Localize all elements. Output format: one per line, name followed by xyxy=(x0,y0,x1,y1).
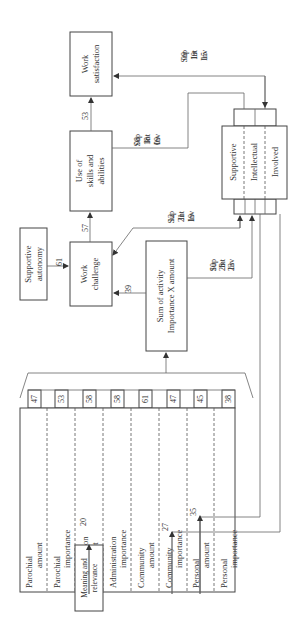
use-of-skills-node: Use of skills and abilities xyxy=(70,131,112,211)
parochial-importance-label-2: importance xyxy=(62,530,72,568)
coef-satisfaction: 09 Sup 19 Int 15 Inv xyxy=(180,49,209,62)
climate-intellectual-label: Intellectual xyxy=(249,142,259,181)
edge-label-20: 20 xyxy=(79,518,88,526)
coef-sat-int-k: Int xyxy=(190,49,199,59)
climate-supportive-label: Supportive xyxy=(228,143,238,181)
administration-importance-label-1: Administration xyxy=(108,536,118,588)
administration-importance-label-2: importance xyxy=(118,530,128,568)
coef-skl-sup-k: Sup xyxy=(133,134,142,146)
coef-sat-inv-k: Inv xyxy=(200,50,209,61)
parochial-importance-label-1: Parochial xyxy=(52,555,62,588)
community-importance-label-2: importance xyxy=(174,530,184,568)
edge-label-57: 57 xyxy=(81,224,90,232)
personal-amount-label-2: amount xyxy=(201,542,211,568)
administration-amount-value: 58 xyxy=(85,395,94,403)
sum-of-activity-label-2: Importance X amount xyxy=(166,258,176,333)
community-amount-label-2: amount xyxy=(146,542,156,568)
edge-label-39: 39 xyxy=(124,285,133,293)
use-of-skills-label-2: skills and xyxy=(85,154,95,187)
supportive-autonomy-label-2: autonomy xyxy=(34,246,44,281)
edge-label-53: 53 xyxy=(81,112,90,120)
administration-importance-value: 58 xyxy=(113,395,122,403)
work-satisfaction-node: Work satisfaction xyxy=(70,32,112,96)
supportive-autonomy-node: Supportive autonomy xyxy=(20,228,47,300)
coef-sum-sup-k: Sup xyxy=(209,259,218,271)
work-challenge-label-1: Work xyxy=(79,264,89,283)
coef-sat-sup-k: Sup xyxy=(180,50,189,62)
edge-climate-satisfaction xyxy=(114,76,265,109)
personal-amount-value: 45 xyxy=(196,395,205,403)
personal-importance-label-1: Personal xyxy=(219,558,229,588)
coef-skl-int-k: Int xyxy=(143,133,152,143)
climate-involved-label: Involved xyxy=(270,146,280,177)
path-diagram: Work satisfaction Use of skills and abil… xyxy=(0,0,300,628)
meaning-relevance-label-2: relevance xyxy=(90,563,99,592)
parochial-amount-label-1: Parochial xyxy=(24,555,34,588)
parochial-amount-value: 47 xyxy=(30,395,39,403)
coef-chl-inv-k: Inv xyxy=(187,211,196,222)
work-challenge-node: Work challenge xyxy=(70,242,112,306)
use-of-skills-label-1: Use of xyxy=(74,160,84,183)
edge-label-27: 27 xyxy=(161,523,170,531)
edge-label-35: 35 xyxy=(189,508,198,516)
coef-challenge: 12 Sup 21 Int 19 Inv xyxy=(167,210,196,223)
use-of-skills-label-3: abilities xyxy=(96,158,106,185)
coef-chl-sup-k: Sup xyxy=(167,211,176,223)
coef-sum-inv-k: Inv xyxy=(227,259,236,270)
community-importance-value: 47 xyxy=(169,395,178,403)
climate-node: Supportive Intellectual Involved xyxy=(222,109,287,214)
coef-sum-int-k: Int xyxy=(218,258,227,268)
coef-chl-int-k: Int xyxy=(177,210,186,220)
personal-importance-value: 38 xyxy=(224,395,233,403)
coef-sum: 10 Sup 28 Int 23 Inv xyxy=(209,258,236,271)
meaning-relevance-label-1: Meaning and xyxy=(80,558,89,598)
coef-skills: 08 Sup 18 Int 09 Inv xyxy=(133,133,162,146)
community-amount-value: 61 xyxy=(141,395,150,403)
edge-label-61: 61 xyxy=(55,258,64,266)
personal-importance-label-2: importance xyxy=(229,530,239,568)
work-satisfaction-label-2: satisfaction xyxy=(91,44,101,83)
parochial-importance-value: 53 xyxy=(57,395,66,403)
personal-amount-label-1: Personal xyxy=(191,558,201,588)
activity-table: 47 53 58 58 61 47 45 38 Parochial amount… xyxy=(20,373,253,592)
coef-skl-inv-k: Inv xyxy=(153,134,162,145)
work-satisfaction-label-1: Work xyxy=(80,54,90,73)
work-challenge-label-2: challenge xyxy=(90,257,100,290)
community-amount-label-1: Community xyxy=(136,547,146,588)
parochial-amount-label-2: amount xyxy=(34,542,44,568)
community-importance-label-1: Community xyxy=(164,547,174,588)
sum-of-activity-label-1: Sum of activity xyxy=(155,269,165,322)
sum-of-activity-node: Sum of activity Importance X amount xyxy=(146,241,187,351)
supportive-autonomy-label-1: Supportive xyxy=(23,245,33,283)
